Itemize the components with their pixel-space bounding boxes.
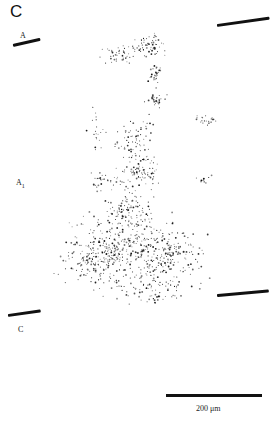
figure-panel: C A A1 C 200 μm xyxy=(0,0,272,422)
scale-bar xyxy=(166,394,262,397)
scale-bar-label: 200 μm xyxy=(196,404,221,413)
labeled-cell-scatter xyxy=(0,0,272,422)
